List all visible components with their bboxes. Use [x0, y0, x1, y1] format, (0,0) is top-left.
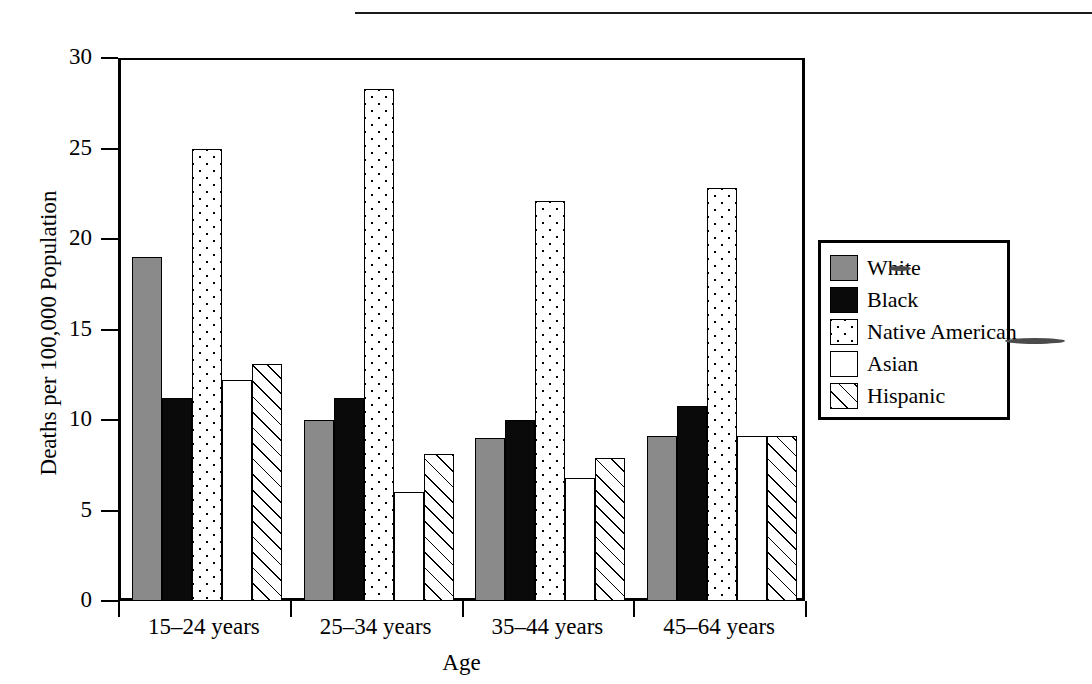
- chart-legend: WhiteBlackNative AmericanAsianHispanic: [818, 240, 1010, 420]
- legend-swatch-hispanic: [830, 383, 858, 409]
- bar-black: [505, 420, 535, 601]
- bar-white: [132, 257, 162, 601]
- y-axis-tick: [101, 329, 118, 331]
- title-rule: [355, 12, 1092, 14]
- legend-label: Hispanic: [867, 385, 945, 407]
- legend-swatch-white: [830, 255, 858, 281]
- legend-item-asian: Asian: [830, 348, 918, 379]
- y-axis-tick-label: 0: [30, 588, 92, 611]
- legend-item-native-american: Native American: [830, 316, 1017, 347]
- y-axis-tick-label: 10: [30, 407, 92, 430]
- legend-swatch-native-american: [830, 319, 858, 345]
- bar-black: [334, 398, 364, 601]
- x-axis-group-label: 35–44 years: [457, 614, 637, 640]
- bar-native-american: [192, 149, 222, 602]
- legend-label: Asian: [867, 353, 918, 375]
- x-axis-group-label: 15–24 years: [114, 614, 294, 640]
- scan-artifact-mark: [889, 266, 911, 271]
- bar-black: [162, 398, 192, 601]
- scan-artifact-mark: [1005, 338, 1065, 344]
- legend-item-black: Black: [830, 284, 918, 315]
- y-axis-tick: [101, 148, 118, 150]
- bar-black: [677, 406, 707, 601]
- y-axis-tick: [101, 238, 118, 240]
- bar-native-american: [364, 89, 394, 601]
- bar-asian: [737, 436, 767, 601]
- bar-white: [647, 436, 677, 601]
- y-axis-tick: [101, 57, 118, 59]
- y-axis-tick: [101, 600, 118, 602]
- bar-white: [304, 420, 334, 601]
- bar-native-american: [707, 188, 737, 601]
- bar-native-american: [535, 201, 565, 601]
- bar-asian: [222, 380, 252, 601]
- legend-item-hispanic: Hispanic: [830, 380, 945, 411]
- y-axis-tick: [101, 510, 118, 512]
- x-axis-title: Age: [118, 650, 805, 676]
- y-axis-tick-label: 25: [30, 136, 92, 159]
- bar-hispanic: [595, 458, 625, 601]
- bar-asian: [565, 478, 595, 601]
- bar-hispanic: [767, 436, 797, 601]
- bar-white: [475, 438, 505, 601]
- legend-swatch-black: [830, 287, 858, 313]
- x-axis-group-label: 45–64 years: [629, 614, 809, 640]
- legend-label: Black: [867, 289, 918, 311]
- bar-hispanic: [252, 364, 282, 601]
- legend-swatch-asian: [830, 351, 858, 377]
- bar-hispanic: [424, 454, 454, 601]
- y-axis-tick-label: 20: [30, 226, 92, 249]
- y-axis-tick-label: 5: [30, 498, 92, 521]
- y-axis-tick-label: 15: [30, 317, 92, 340]
- y-axis-tick: [101, 419, 118, 421]
- x-axis-group-label: 25–34 years: [286, 614, 466, 640]
- legend-label: Native American: [867, 321, 1017, 343]
- bar-asian: [394, 492, 424, 601]
- y-axis-tick-label: 30: [30, 45, 92, 68]
